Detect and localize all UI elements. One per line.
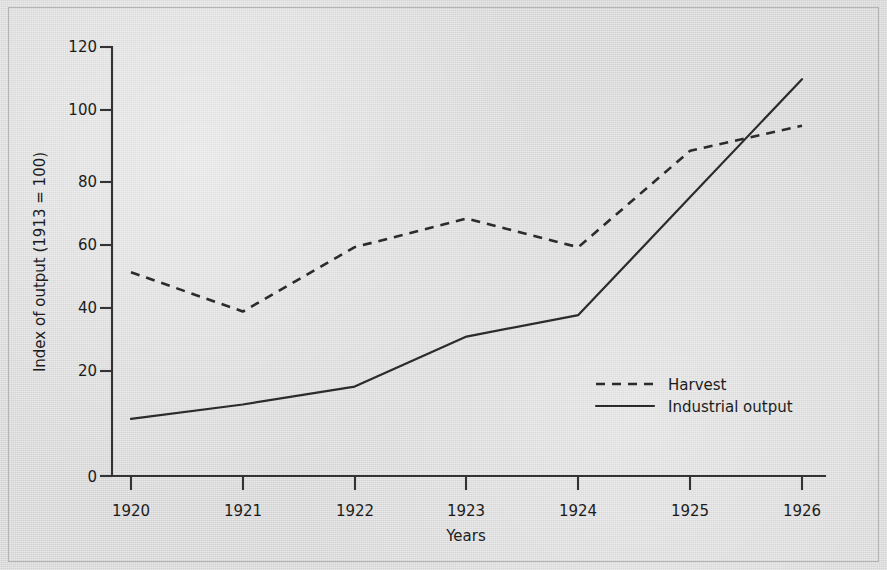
y-tick-label-20: 20	[78, 362, 97, 380]
x-tick-label-1920: 1920	[112, 502, 150, 520]
x-tick-label-1923: 1923	[447, 502, 485, 520]
y-tick-label-0: 0	[87, 468, 97, 486]
y-axis-label: Index of output (1913 = 100)	[31, 152, 49, 372]
chart-figure: Index of output (1913 = 100) 120 100 80 …	[0, 0, 887, 570]
x-tick-label-1922: 1922	[336, 502, 374, 520]
series-line-industrial-output	[131, 79, 802, 419]
y-tick-label-80: 80	[78, 173, 97, 191]
x-tick-label-1925: 1925	[671, 502, 709, 520]
series-line-harvest	[131, 126, 802, 312]
y-tick-label-40: 40	[78, 299, 97, 317]
y-tick-label-60: 60	[78, 236, 97, 254]
chart-legend: Harvest Industrial output	[596, 376, 793, 416]
x-axis-label: Years	[445, 527, 486, 545]
legend-label-harvest: Harvest	[668, 376, 727, 394]
y-tick-label-100: 100	[68, 101, 97, 119]
legend-label-industrial-output: Industrial output	[668, 398, 793, 416]
x-tick-label-1924: 1924	[559, 502, 597, 520]
x-tick-label-1926: 1926	[783, 502, 821, 520]
y-tick-label-120: 120	[68, 38, 97, 56]
x-tick-label-1921: 1921	[224, 502, 262, 520]
line-chart-plot: Index of output (1913 = 100) 120 100 80 …	[0, 0, 887, 570]
